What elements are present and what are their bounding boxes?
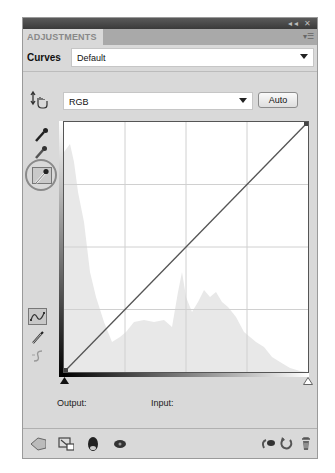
input-label: Input:	[151, 398, 174, 408]
return-to-list-icon[interactable]	[30, 436, 46, 452]
preset-dropdown[interactable]: Default	[71, 48, 314, 67]
smooth-curve-icon[interactable]	[30, 348, 46, 364]
input-gradient-bar	[63, 373, 309, 377]
channel-dropdown[interactable]: RGB	[63, 92, 253, 110]
adjustments-panel: ◂◂ ✕ ADJUSTMENTS ▾☰ Curves Default RGB A…	[22, 17, 318, 459]
clip-to-layer-icon[interactable]	[58, 436, 74, 452]
curve-points-button[interactable]	[28, 308, 47, 325]
on-image-adjustment-icon[interactable]	[29, 90, 49, 110]
bottom-toolbar	[23, 428, 317, 459]
white-point-eyedropper-icon	[33, 166, 51, 186]
black-point-slider[interactable]	[60, 377, 69, 385]
panel-menu-icon[interactable]: ▾☰	[303, 32, 314, 41]
collapse-icon[interactable]: ◂◂	[288, 19, 300, 28]
title-bar: ◂◂ ✕	[23, 18, 317, 29]
black-point-eyedropper-icon[interactable]	[33, 126, 49, 144]
curve-point-black	[64, 368, 68, 372]
curve-graph-canvas	[64, 122, 308, 372]
preset-row: Curves Default	[23, 45, 317, 72]
preset-value: Default	[77, 53, 106, 63]
reset-to-previous-icon[interactable]	[259, 436, 275, 452]
gray-point-eyedropper-icon[interactable]	[33, 144, 49, 160]
output-label: Output:	[57, 398, 87, 408]
tab-adjustments[interactable]: ADJUSTMENTS	[23, 29, 103, 45]
curve-points-icon	[29, 309, 46, 324]
white-point-slider[interactable]	[303, 377, 313, 385]
channel-value: RGB	[69, 97, 89, 107]
tab-strip: ADJUSTMENTS ▾☰	[23, 29, 317, 45]
curve-point-white	[304, 122, 308, 126]
window-controls: ◂◂ ✕	[288, 18, 313, 29]
chevron-down-icon	[239, 98, 247, 103]
chevron-down-icon	[300, 54, 308, 59]
reset-icon[interactable]	[279, 436, 295, 452]
pencil-draw-icon[interactable]	[30, 330, 46, 346]
delete-adjustment-icon[interactable]	[299, 436, 315, 452]
layer-visibility-icon[interactable]	[86, 436, 102, 452]
auto-button[interactable]: Auto	[258, 92, 298, 108]
close-icon[interactable]: ✕	[304, 19, 313, 28]
white-point-eyedropper-button[interactable]	[25, 159, 57, 191]
adjustment-type-label: Curves	[27, 52, 61, 63]
curve-graph[interactable]	[63, 121, 309, 373]
view-previous-state-icon[interactable]	[112, 436, 128, 452]
